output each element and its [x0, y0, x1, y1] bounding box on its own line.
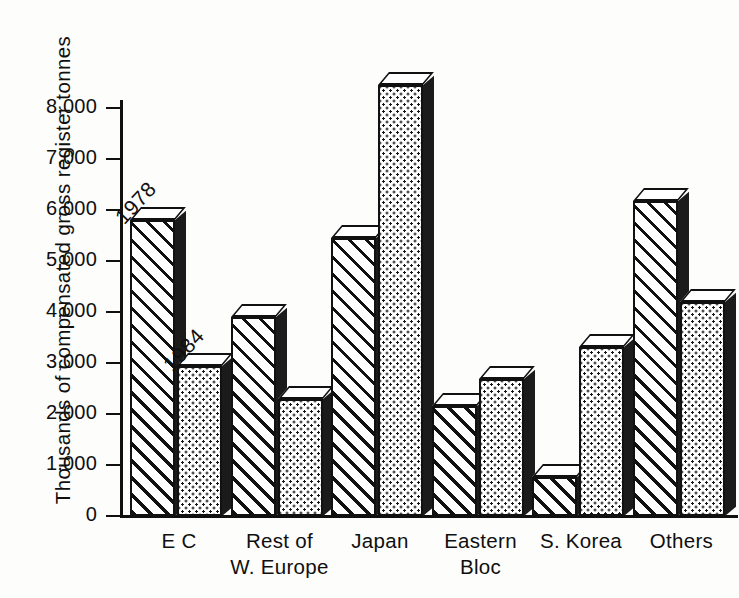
bar-1978-others — [633, 188, 678, 516]
y-tick-label-8000: 8,000 — [13, 95, 97, 118]
bar-front-face — [479, 379, 524, 516]
y-tick-label-1000: 1,000 — [13, 452, 97, 475]
bar-front-face — [532, 477, 577, 516]
bar-front-face — [177, 366, 222, 516]
y-tick-8000 — [106, 107, 122, 109]
bar-1984-others — [680, 289, 725, 516]
bar-1984-rest-of-w--europe — [278, 386, 323, 516]
y-tick-label-6000: 6,000 — [13, 197, 97, 220]
bar-1978-rest-of-w--europe — [231, 304, 276, 516]
bar-front-face — [633, 201, 678, 516]
bar-1978-eastern-bloc — [432, 393, 477, 516]
y-tick-5000 — [106, 260, 122, 262]
bar-1978-s--korea — [532, 464, 577, 516]
bar-front-face — [278, 399, 323, 516]
bar-front-face — [378, 85, 423, 516]
y-tick-label-7000: 7,000 — [13, 146, 97, 169]
bar-1984-s--korea — [579, 334, 624, 516]
y-tick-label-5000: 5,000 — [13, 248, 97, 271]
y-tick-2000 — [106, 413, 122, 415]
y-tick-label-0: 0 — [13, 503, 97, 526]
bar-1984-eastern-bloc — [479, 366, 524, 516]
bar-front-face — [579, 347, 624, 516]
y-tick-7000 — [106, 158, 122, 160]
bar-1984-japan — [378, 72, 423, 516]
y-tick-label-2000: 2,000 — [13, 401, 97, 424]
bar-front-face — [680, 302, 725, 516]
y-tick-label-4000: 4,000 — [13, 299, 97, 322]
y-tick-1000 — [106, 464, 122, 466]
bar-front-face — [331, 238, 376, 516]
bar-1984-e-c — [177, 353, 222, 516]
bar-front-face — [432, 406, 477, 516]
y-tick-4000 — [106, 311, 122, 313]
y-tick-3000 — [106, 362, 122, 364]
x-label-others: Others — [607, 528, 739, 554]
y-tick-0 — [106, 515, 122, 517]
y-tick-label-3000: 3,000 — [13, 350, 97, 373]
bar-side-face — [725, 293, 736, 516]
bar-chart: Thousands of compensated gross register … — [0, 0, 739, 598]
bar-1978-japan — [331, 225, 376, 516]
y-axis-line — [120, 100, 123, 518]
bar-front-face — [231, 317, 276, 516]
